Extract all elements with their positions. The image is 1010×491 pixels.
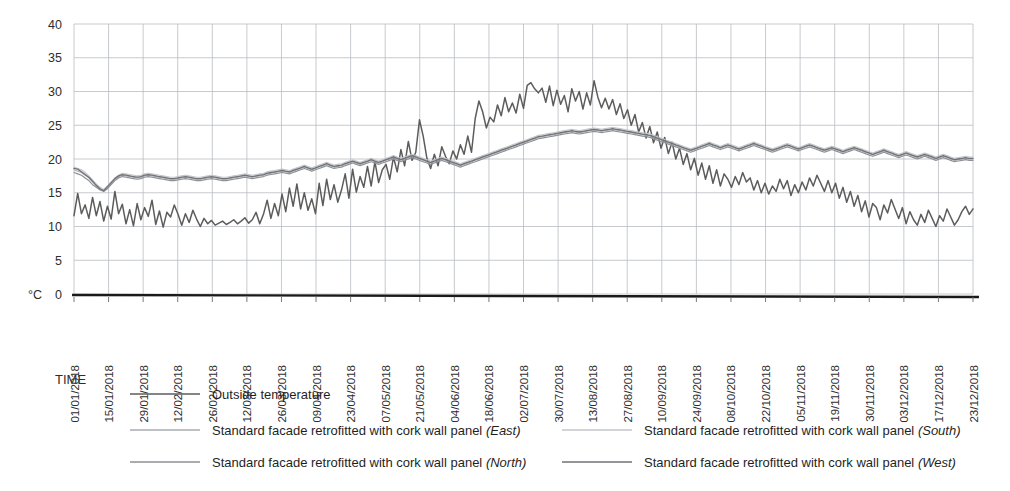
legend-label-orientation: (East): [486, 423, 521, 438]
x-axis-tick-label: 13/08/2018: [587, 365, 599, 423]
x-axis-baseline: [72, 295, 979, 297]
y-axis-tick-label: 25: [48, 119, 62, 133]
legend-label-orientation: (North): [486, 455, 526, 470]
legend-label: Standard facade retrofitted with cork wa…: [644, 423, 961, 438]
x-axis-tick-label: 18/06/2018: [483, 365, 495, 423]
grid-layer: [74, 24, 973, 294]
x-axis-tick-label: 15/01/2018: [103, 365, 115, 423]
y-axis-tick-label: 35: [48, 51, 62, 65]
x-axis-tick-label: 30/07/2018: [553, 365, 565, 423]
x-axis-ticks: 01/01/201815/01/201829/01/201812/02/2018…: [69, 297, 980, 423]
y-axis-tick-label: 5: [55, 254, 62, 268]
x-axis-line: [72, 295, 979, 297]
y-axis-tick-label: 0: [55, 288, 62, 302]
y-axis-tick-label: 15: [48, 186, 62, 200]
legend-label: Standard facade retrofitted with cork wa…: [212, 455, 526, 470]
y-axis-tick-label: 20: [48, 153, 62, 167]
x-axis-tick-label: 17/12/2018: [933, 365, 945, 423]
legend-label: Standard facade retrofitted with cork wa…: [212, 423, 521, 438]
x-axis-title: TIME: [55, 372, 86, 387]
x-axis-tick-label: 21/05/2018: [414, 365, 426, 423]
y-axis-tick-label: 10: [48, 220, 62, 234]
x-axis-tick-label: 19/11/2018: [829, 365, 841, 422]
x-axis-tick-label: 24/09/2018: [691, 365, 703, 423]
x-axis-tick-label: 27/08/2018: [622, 365, 634, 423]
legend-label: Outside temperature: [212, 387, 331, 402]
legend-label-text: Standard facade retrofitted with cork wa…: [212, 455, 486, 470]
x-axis-tick-label: 07/05/2018: [380, 365, 392, 423]
y-axis-unit-label: °C: [28, 288, 42, 302]
y-axis-tick-label: 40: [48, 18, 62, 32]
x-axis-tick-label: 05/11/2018: [795, 365, 807, 422]
x-axis-tick-label: 03/12/2018: [898, 365, 910, 423]
x-axis-tick-label: 23/04/2018: [345, 365, 357, 423]
x-axis-tick-label: 30/11/2018: [864, 365, 876, 422]
x-axis-tick-label: 23/12/2018: [968, 365, 980, 423]
legend-label-text: Standard facade retrofitted with cork wa…: [644, 423, 918, 438]
legend-label: Standard facade retrofitted with cork wa…: [644, 455, 956, 470]
y-axis-tick-label: 30: [48, 85, 62, 99]
x-axis-tick-label: 02/07/2018: [518, 365, 530, 423]
legend-label-text: Standard facade retrofitted with cork wa…: [212, 423, 486, 438]
x-axis-tick-label: 08/10/2018: [725, 365, 737, 423]
legend-label-text: Outside temperature: [212, 387, 331, 402]
legend-label-orientation: (South): [918, 423, 961, 438]
x-axis-tick-label: 04/06/2018: [449, 365, 461, 423]
x-axis-tick-label: 22/10/2018: [760, 365, 772, 423]
legend-label-text: Standard facade retrofitted with cork wa…: [644, 455, 918, 470]
x-axis-tick-label: 10/09/2018: [656, 365, 668, 423]
y-axis-ticks: 0510152025303540: [48, 18, 62, 302]
legend-label-orientation: (West): [918, 455, 956, 470]
temperature-chart: 0510152025303540 01/01/201815/01/201829/…: [0, 0, 1010, 491]
chart-canvas: 0510152025303540 01/01/201815/01/201829/…: [0, 0, 1010, 491]
